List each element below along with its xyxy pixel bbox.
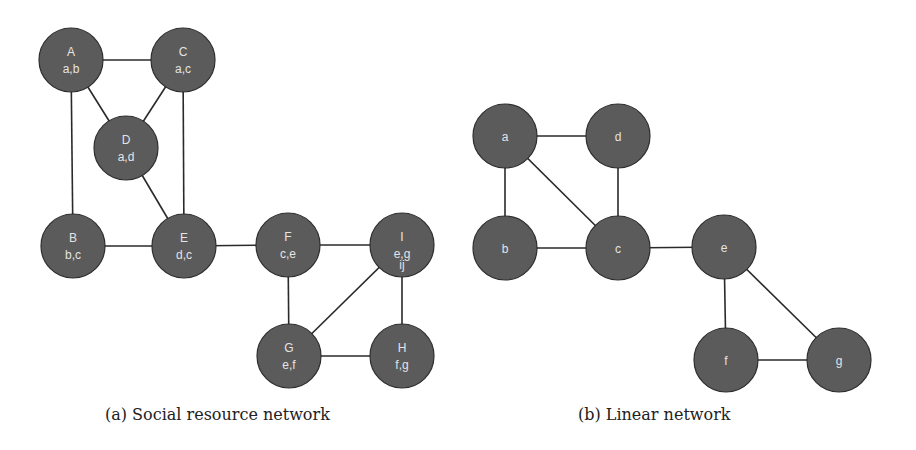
node-I: Ie,gij [370, 213, 434, 277]
node-e: e [692, 215, 756, 279]
node-a: a [473, 104, 537, 168]
node-circle [39, 28, 103, 92]
nodes: Aa,bCa,cDa,dBb,cEd,cFc,eIe,gijGe,fHf,g [39, 28, 434, 388]
node-resources: a,c [175, 62, 191, 76]
node-label: e [721, 241, 728, 255]
node-d: d [586, 104, 650, 168]
node-circle [94, 116, 158, 180]
node-label: I [400, 230, 403, 244]
network-diagram: Aa,bCa,cDa,dBb,cEd,cFc,eIe,gijGe,fHf,g a… [0, 0, 916, 400]
node-f: f [694, 328, 758, 392]
node-b: b [473, 216, 537, 280]
edges [505, 136, 839, 360]
node-label: C [179, 45, 188, 59]
panel-linear-network: adbcefg [473, 104, 871, 392]
node-A: Aa,b [39, 28, 103, 92]
node-C: Ca,c [151, 28, 215, 92]
node-resources: a,b [63, 62, 80, 76]
node-label: b [502, 242, 509, 256]
node-label: c [615, 242, 621, 256]
node-label: F [284, 230, 291, 244]
node-circle [256, 213, 320, 277]
node-B: Bb,c [41, 214, 105, 278]
node-label: a [502, 130, 509, 144]
node-label: A [67, 45, 75, 59]
node-extra: ij [399, 258, 404, 272]
node-circle [41, 214, 105, 278]
node-resources: a,d [118, 150, 135, 164]
node-label: E [180, 231, 188, 245]
node-label: D [122, 133, 131, 147]
node-g: g [807, 328, 871, 392]
node-H: Hf,g [370, 324, 434, 388]
node-F: Fc,e [256, 213, 320, 277]
node-resources: b,c [65, 248, 81, 262]
node-label: B [69, 231, 77, 245]
node-label: G [284, 341, 293, 355]
node-label: g [836, 354, 843, 368]
node-label: H [398, 341, 407, 355]
caption-b: (b) Linear network [578, 405, 730, 424]
node-c: c [586, 216, 650, 280]
edges [71, 60, 402, 356]
node-circle [151, 28, 215, 92]
node-G: Ge,f [257, 324, 321, 388]
node-resources: f,g [395, 358, 408, 372]
panel-social-resource-network: Aa,bCa,cDa,dBb,cEd,cFc,eIe,gijGe,fHf,g [39, 28, 434, 388]
node-resources: c,e [280, 247, 296, 261]
node-resources: d,c [176, 248, 192, 262]
node-circle [152, 214, 216, 278]
caption-a: (a) Social resource network [105, 405, 330, 424]
node-label: d [615, 130, 622, 144]
node-circle [257, 324, 321, 388]
node-D: Da,d [94, 116, 158, 180]
node-E: Ed,c [152, 214, 216, 278]
node-circle [370, 324, 434, 388]
node-resources: e,f [282, 358, 296, 372]
